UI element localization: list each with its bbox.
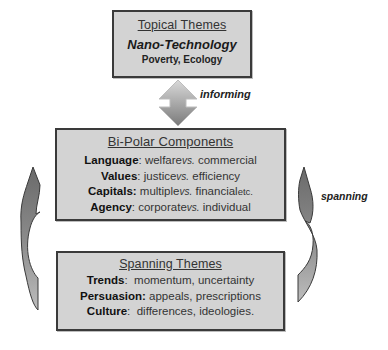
row-label: Agency (90, 201, 132, 213)
row-left: multiple (140, 185, 180, 197)
row-right: commercial (195, 154, 257, 166)
topical-headline: Nano-Technology (114, 37, 250, 52)
row-sep: : (127, 305, 137, 317)
row-vs: vs. (187, 202, 200, 213)
row-value: differences, ideologies. (137, 305, 254, 317)
row-vs: vs. (176, 171, 189, 182)
row-label: Culture (87, 305, 127, 317)
informing-label: informing (200, 88, 251, 100)
informing-double-arrow-icon (159, 80, 197, 126)
spanning-label: spanning (321, 190, 368, 202)
topical-themes-title: Topical Themes (114, 18, 250, 32)
row-label: Capitals: (88, 185, 137, 197)
row-right: individual (200, 201, 251, 213)
row-left: corporate (138, 201, 187, 213)
bipolar-row-values: Values: justicevs. efficiency (57, 169, 284, 185)
row-left: justice (144, 170, 177, 182)
bipolar-row-agency: Agency: corporatevs. individual (57, 200, 284, 216)
row-label: Language (84, 154, 138, 166)
spanning-row-culture: Culture: differences, ideologies. (58, 304, 283, 320)
bipolar-components-title: Bi-Polar Components (57, 134, 284, 149)
spanning-themes-title: Spanning Themes (58, 257, 283, 271)
row-value: momentum, uncertainty (134, 274, 254, 286)
left-curved-arrow-icon (21, 167, 40, 310)
row-label: Persuasion: (80, 290, 146, 302)
right-curved-arrow-icon (298, 167, 317, 302)
row-left: welfare (145, 154, 182, 166)
bipolar-row-language: Language: welfarevs. commercial (57, 153, 284, 169)
row-right: financial (192, 185, 237, 197)
topical-themes-box: Topical Themes Nano-Technology Poverty, … (112, 10, 252, 78)
row-extra: etc. (238, 186, 253, 197)
row-label: Values (101, 170, 137, 182)
row-right: efficiency (189, 170, 240, 182)
bipolar-components-box: Bi-Polar Components Language: welfarevs.… (55, 128, 286, 221)
row-vs: vs. (182, 155, 195, 166)
bipolar-row-capitals: Capitals: multiplevs. financialetc. (57, 184, 284, 200)
spanning-row-trends: Trends: momentum, uncertainty (58, 273, 283, 289)
topical-subtitle: Poverty, Ecology (114, 54, 250, 65)
spanning-row-persuasion: Persuasion: appeals, prescriptions (58, 289, 283, 305)
row-vs: vs. (179, 186, 192, 197)
row-label: Trends (87, 274, 125, 286)
row-sep: : (124, 274, 134, 286)
spanning-themes-box: Spanning Themes Trends: momentum, uncert… (56, 251, 285, 331)
row-value: appeals, prescriptions (149, 290, 261, 302)
